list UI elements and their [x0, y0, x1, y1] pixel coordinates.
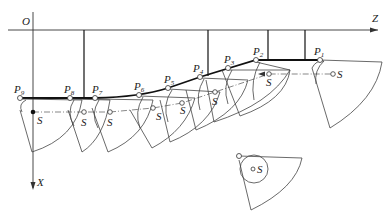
svg-text:P5: P5 [163, 73, 175, 87]
svg-text:S: S [337, 68, 343, 80]
svg-text:S: S [257, 163, 263, 175]
svg-text:P9: P9 [13, 83, 25, 97]
svg-text:P3: P3 [223, 53, 235, 67]
center-labels: S S S S S S S S S [37, 68, 343, 175]
svg-text:S: S [180, 104, 186, 116]
svg-text:S: S [266, 76, 272, 88]
svg-text:P2: P2 [252, 45, 264, 59]
svg-text:P7: P7 [91, 83, 103, 97]
isolated-tool [237, 154, 303, 211]
origin-label: O [22, 15, 30, 27]
z-axis-label: Z [372, 12, 379, 24]
svg-text:S: S [107, 116, 113, 128]
svg-text:S: S [37, 114, 43, 126]
svg-text:S: S [212, 95, 218, 107]
x-axis-label: X [36, 176, 45, 188]
tool-path-diagram: O Z X [0, 0, 389, 222]
svg-text:P1: P1 [313, 45, 324, 59]
direction-arrow-icon [258, 72, 265, 77]
svg-text:P4: P4 [192, 62, 204, 76]
z-axis-arrow-icon [370, 28, 378, 33]
svg-text:P8: P8 [63, 83, 75, 97]
svg-text:P6: P6 [133, 80, 145, 94]
x-axis-arrow-icon [31, 182, 36, 190]
svg-text:S: S [156, 110, 162, 122]
svg-text:S: S [81, 116, 87, 128]
